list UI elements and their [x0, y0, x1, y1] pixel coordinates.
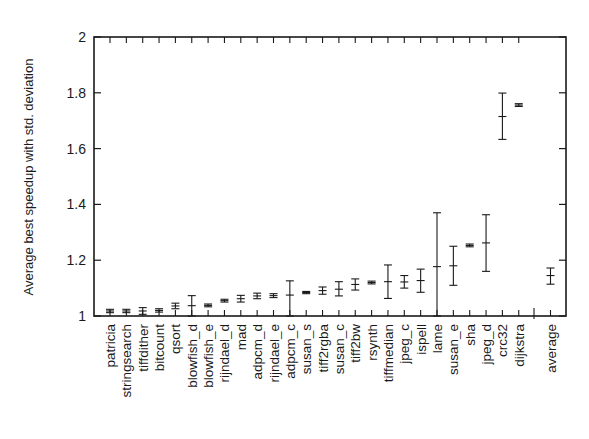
- x-category-label: rijndael_d: [217, 324, 232, 383]
- error-bar-point: [417, 269, 425, 292]
- error-bar-point: [449, 246, 457, 285]
- data-series: [106, 93, 555, 316]
- x-category-label: tiffdither: [136, 323, 151, 371]
- error-bar-point: [400, 276, 408, 289]
- x-category-label: qsort: [168, 324, 183, 354]
- error-bar-point: [286, 281, 294, 316]
- y-tick-label: 1.8: [67, 85, 87, 101]
- y-tick-label: 1.2: [67, 252, 87, 268]
- x-category-label: bitcount: [152, 324, 167, 372]
- error-bar-point: [171, 303, 179, 309]
- y-tick-label: 1.6: [67, 141, 87, 157]
- y-axis: 11.21.41.61.82: [67, 29, 566, 324]
- x-category-label: rsynth: [365, 324, 380, 361]
- error-bar-point: [188, 296, 196, 316]
- x-category-label: ispell: [414, 324, 429, 355]
- x-category-label: tiffmedian: [381, 324, 396, 382]
- x-category-label: lame: [430, 324, 445, 353]
- x-category-label: tiff2rgba: [316, 324, 331, 373]
- x-category-label: dijkstra: [512, 324, 527, 367]
- error-bar-point: [498, 93, 506, 139]
- y-axis-title: Average best speedup with std. deviation: [21, 59, 36, 296]
- error-bar-point: [482, 215, 490, 272]
- x-category-label: crc32: [495, 324, 510, 357]
- error-bar-point: [155, 309, 163, 312]
- error-bar-point: [351, 279, 359, 290]
- x-category-label: adpcm_c: [283, 324, 298, 379]
- error-bar-point: [139, 308, 147, 315]
- y-tick-label: 1.4: [67, 196, 87, 212]
- error-bar-point: [270, 294, 278, 298]
- error-bar-point: [302, 291, 310, 293]
- x-category-label: blowfish_d: [185, 324, 200, 388]
- y-tick-label: 2: [78, 29, 86, 45]
- error-bar-point: [433, 213, 441, 316]
- errorbar-chart: 11.21.41.61.82 patriciastringsearchtiffd…: [0, 0, 589, 439]
- x-category-label: rijndael_e: [267, 324, 282, 383]
- error-bar-point: [515, 104, 523, 107]
- error-bar-point: [122, 309, 130, 312]
- x-axis: patriciastringsearchtiffditherbitcountqs…: [103, 37, 559, 398]
- error-bar-point: [106, 309, 114, 312]
- x-category-label: mad: [234, 324, 249, 350]
- x-category-label: susan_s: [299, 324, 314, 375]
- error-bar-point: [384, 265, 392, 298]
- y-tick-label: 1: [78, 308, 86, 324]
- plot-border: [94, 37, 566, 316]
- x-category-label: tiff2bw: [348, 324, 363, 363]
- x-category-label: susan_c: [332, 324, 347, 375]
- x-category-label: stringsearch: [119, 324, 134, 398]
- error-bar-point: [368, 281, 376, 284]
- error-bar-point: [204, 304, 212, 307]
- x-category-label: susan_e: [446, 324, 461, 375]
- x-category-label: patricia: [103, 324, 118, 368]
- error-bar-point: [253, 293, 261, 299]
- x-category-label: average: [544, 324, 559, 373]
- error-bar-point: [466, 244, 474, 247]
- x-category-label: jpeg_d: [479, 324, 494, 366]
- error-bar-point: [319, 287, 327, 294]
- x-category-label: adpcm_d: [250, 324, 265, 380]
- error-bar-point: [335, 282, 343, 296]
- plot-frame: [94, 37, 566, 316]
- x-category-label: blowfish_e: [201, 324, 216, 388]
- error-bar-point: [237, 295, 245, 302]
- x-category-label: sha: [463, 324, 478, 346]
- x-category-label: jpeg_c: [397, 324, 412, 365]
- error-bar-point: [220, 299, 228, 302]
- error-bar-point: [547, 268, 555, 284]
